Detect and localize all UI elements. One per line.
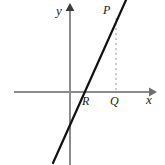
x-axis-label: x (146, 93, 152, 106)
point-label-q: Q (110, 95, 119, 107)
diagonal-line (53, 0, 126, 163)
point-label-p: P (103, 4, 110, 16)
coordinate-plane-figure: y x P R Q (0, 0, 165, 165)
y-axis-label: y (56, 4, 62, 17)
point-label-r: R (82, 95, 89, 107)
figure-canvas (0, 0, 165, 165)
y-axis-arrowhead-icon (66, 3, 75, 11)
y-axis (66, 3, 75, 165)
